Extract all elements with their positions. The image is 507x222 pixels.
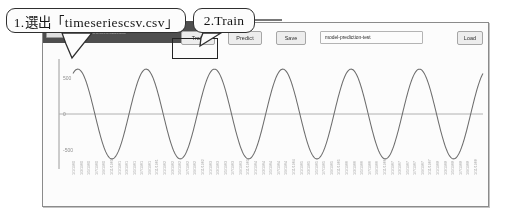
x-tick-label: 1/7/1961 bbox=[140, 161, 144, 175]
x-tick-label: 1/9/1966 bbox=[375, 161, 379, 175]
x-tick-label: 1/11/1966 bbox=[383, 159, 387, 175]
timeseries-chart: 5000-500 1/1/19601/3/19601/5/19601/7/196… bbox=[43, 57, 490, 207]
x-tick-label: 1/3/1966 bbox=[353, 161, 357, 175]
x-tick-label: 1/3/1968 bbox=[444, 161, 448, 175]
x-tick-label: 1/7/1963 bbox=[231, 161, 235, 175]
predict-button[interactable]: Predict bbox=[228, 31, 262, 45]
x-tick-label: 1/5/1965 bbox=[315, 161, 319, 175]
x-tick-label: 1/3/1964 bbox=[262, 161, 266, 175]
x-tick-label: 1/3/1963 bbox=[216, 161, 220, 175]
y-tick-label: -500 bbox=[63, 147, 73, 153]
x-tick-label: 1/1/1967 bbox=[391, 161, 395, 175]
x-tick-label: 1/1/1963 bbox=[209, 161, 213, 175]
x-tick-label: 1/1/1960 bbox=[72, 161, 76, 175]
x-tick-label: 1/7/1966 bbox=[368, 161, 372, 175]
annotation-callout-select-file: 1.選出「timeseriescsv.csv」 bbox=[6, 8, 186, 33]
x-tick-label: 1/11/1967 bbox=[428, 159, 432, 175]
x-tick-label: 1/1/1964 bbox=[254, 161, 258, 175]
x-tick-label: 1/5/1962 bbox=[178, 161, 182, 175]
x-tick-label: 1/1/1961 bbox=[118, 161, 122, 175]
x-tick-label: 1/3/1967 bbox=[398, 161, 402, 175]
x-tick-label: 1/5/1964 bbox=[269, 161, 273, 175]
x-tick-label: 1/9/1963 bbox=[239, 161, 243, 175]
train-button-highlight bbox=[172, 38, 218, 59]
x-tick-label: 1/7/1965 bbox=[322, 161, 326, 175]
x-tick-label: 1/5/1961 bbox=[133, 161, 137, 175]
x-tick-label: 1/11/1960 bbox=[110, 159, 114, 175]
x-tick-label: 1/5/1963 bbox=[224, 161, 228, 175]
chart-canvas: 5000-500 1/1/19601/3/19601/5/19601/7/196… bbox=[43, 57, 490, 207]
x-tick-label: 1/11/1964 bbox=[292, 159, 296, 175]
x-tick-label: 1/9/1965 bbox=[330, 161, 334, 175]
x-tick-label: 1/5/1960 bbox=[87, 161, 91, 175]
x-tick-label: 1/9/1960 bbox=[102, 161, 106, 175]
app-window: Choose File timeseriescsv.csv 1.csv data… bbox=[42, 22, 489, 207]
x-tick-label: 1/1/1965 bbox=[300, 161, 304, 175]
load-button[interactable]: Load bbox=[457, 31, 483, 45]
x-tick-label: 1/11/1968 bbox=[474, 159, 478, 175]
x-tick-label: 1/3/1965 bbox=[307, 161, 311, 175]
x-tick-label: 1/1/1966 bbox=[345, 161, 349, 175]
x-tick-label: 1/5/1966 bbox=[360, 161, 364, 175]
x-tick-label: 1/9/1964 bbox=[284, 161, 288, 175]
x-tick-label: 1/9/1962 bbox=[193, 161, 197, 175]
x-tick-label: 1/3/1962 bbox=[171, 161, 175, 175]
x-tick-label: 1/1/1968 bbox=[436, 161, 440, 175]
x-tick-label: 1/1/1962 bbox=[163, 161, 167, 175]
x-tick-label: 1/3/1961 bbox=[125, 161, 129, 175]
x-tick-label: 1/7/1967 bbox=[413, 161, 417, 175]
x-tick-label: 1/9/1968 bbox=[466, 161, 470, 175]
x-tick-label: 1/5/1967 bbox=[406, 161, 410, 175]
x-tick-label: 1/11/1961 bbox=[155, 159, 159, 175]
model-name-input[interactable] bbox=[320, 31, 423, 44]
y-tick-label: 500 bbox=[63, 75, 72, 81]
x-tick-label: 1/7/1962 bbox=[186, 161, 190, 175]
x-tick-label: 1/11/1965 bbox=[337, 159, 341, 175]
x-tick-label: 1/9/1967 bbox=[421, 161, 425, 175]
x-tick-label: 1/7/1968 bbox=[459, 161, 463, 175]
x-tick-label: 1/7/1960 bbox=[95, 161, 99, 175]
x-tick-label: 1/9/1961 bbox=[148, 161, 152, 175]
x-tick-label: 1/3/1960 bbox=[80, 161, 84, 175]
annotation-callout-train: 2.Train bbox=[193, 8, 255, 33]
x-tick-label: 1/7/1964 bbox=[277, 161, 281, 175]
save-button[interactable]: Save bbox=[276, 31, 306, 45]
y-tick-label: 0 bbox=[63, 111, 66, 117]
x-axis-ticks: 1/1/19601/3/19601/5/19601/7/19601/9/1960… bbox=[72, 159, 478, 175]
x-tick-label: 1/11/1963 bbox=[246, 159, 250, 175]
x-tick-label: 1/11/1962 bbox=[201, 159, 205, 175]
x-tick-label: 1/5/1968 bbox=[451, 161, 455, 175]
